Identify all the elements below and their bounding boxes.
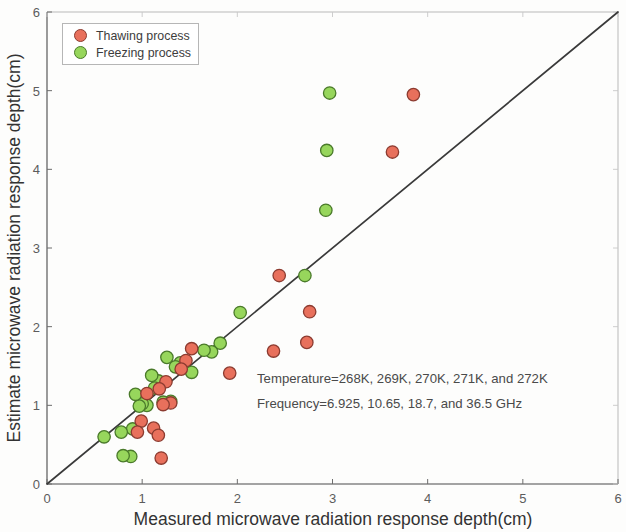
y-tick-label: 2	[33, 320, 40, 335]
legend-label-freezing: Freezing process	[96, 46, 191, 60]
y-tick-label: 3	[33, 241, 40, 256]
x-tick-label: 1	[139, 491, 146, 506]
scatter-point	[301, 336, 313, 348]
scatter-point	[323, 87, 335, 99]
scatter-point	[145, 369, 157, 381]
scatter-point	[157, 398, 169, 410]
scatter-point	[267, 345, 279, 357]
scatter-point	[161, 351, 173, 363]
scatter-point	[115, 426, 127, 438]
scatter-point	[320, 204, 332, 216]
scatter-point	[198, 344, 210, 356]
plot-canvas: 01234560123456 Temperature=268K, 269K, 2…	[0, 0, 626, 532]
x-tick-label: 5	[519, 491, 526, 506]
scatter-point	[152, 429, 164, 441]
y-axis-title: Estimate microwave radiation response de…	[4, 53, 24, 442]
x-tick-label: 2	[234, 491, 241, 506]
legend-marker-freezing-icon	[74, 46, 87, 59]
scatter-point	[175, 363, 187, 375]
scatter-point	[303, 306, 315, 318]
y-tick-label: 4	[33, 162, 40, 177]
legend-item-thawing: Thawing process	[68, 27, 191, 44]
chart-legend: Thawing process Freezing process	[62, 23, 199, 65]
scatter-point	[407, 88, 419, 100]
y-tick-label: 5	[33, 84, 40, 99]
y-tick-label: 0	[33, 477, 40, 492]
scatter-point	[129, 388, 141, 400]
scatter-plot-figure: 01234560123456 Temperature=268K, 269K, 2…	[0, 0, 626, 532]
x-tick-label: 4	[424, 491, 431, 506]
y-tick-label: 6	[33, 5, 40, 20]
scatter-point	[234, 306, 246, 318]
scatter-point	[273, 269, 285, 281]
legend-item-freezing: Freezing process	[68, 44, 191, 61]
identity-reference-line	[47, 12, 618, 484]
x-tick-label: 6	[614, 491, 621, 506]
scatter-point	[299, 269, 311, 281]
scatter-point	[153, 383, 165, 395]
scatter-point	[155, 452, 167, 464]
x-tick-label: 0	[43, 491, 50, 506]
chart-annotation-line: Temperature=268K, 269K, 270K, 271K, and …	[257, 371, 548, 386]
scatter-point	[224, 367, 236, 379]
scatter-point	[117, 449, 129, 461]
scatter-point	[141, 387, 153, 399]
x-tick-label: 3	[329, 491, 336, 506]
scatter-point	[185, 342, 197, 354]
scatter-point	[98, 431, 110, 443]
x-axis-title: Measured microwave radiation response de…	[134, 509, 533, 529]
scatter-point	[131, 426, 143, 438]
legend-marker-thawing-icon	[74, 29, 87, 42]
legend-label-thawing: Thawing process	[96, 29, 190, 43]
scatter-point	[386, 146, 398, 158]
chart-annotation-line: Frequency=6.925, 10.65, 18.7, and 36.5 G…	[257, 396, 522, 411]
scatter-point	[133, 400, 145, 412]
y-tick-label: 1	[33, 398, 40, 413]
scatter-point	[321, 144, 333, 156]
annotation-block: Temperature=268K, 269K, 270K, 271K, and …	[257, 371, 548, 411]
